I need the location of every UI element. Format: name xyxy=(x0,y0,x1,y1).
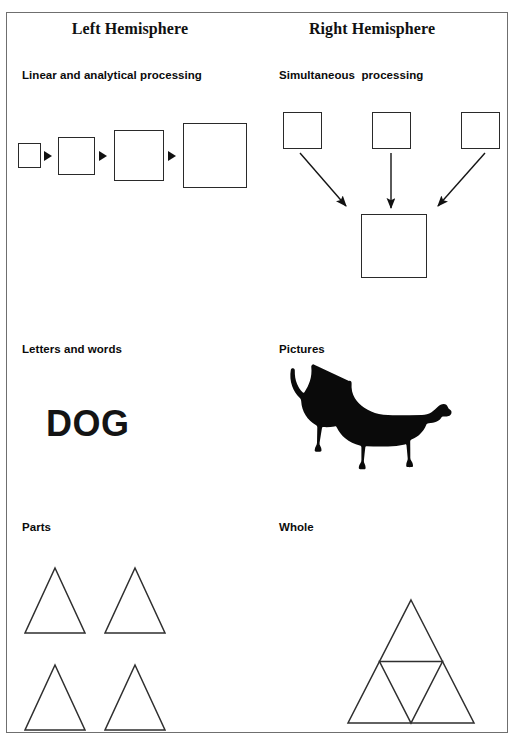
sequence-square-1 xyxy=(18,143,41,168)
label-simultaneous-processing: Simultaneous processing xyxy=(279,69,423,81)
dog-word-text: DOG xyxy=(46,406,130,442)
label-letters-and-words: Letters and words xyxy=(22,343,122,355)
converge-result-square xyxy=(361,214,427,278)
diagram-frame xyxy=(6,12,508,733)
converge-top-square-2 xyxy=(372,112,411,149)
diagram-page: Left Hemisphere Right Hemisphere Linear … xyxy=(0,0,522,741)
sequence-square-2 xyxy=(58,137,95,175)
label-pictures: Pictures xyxy=(279,343,325,355)
label-linear-analytical-processing: Linear and analytical processing xyxy=(22,69,202,81)
right-hemisphere-title: Right Hemisphere xyxy=(262,20,482,38)
converge-top-square-1 xyxy=(283,112,322,149)
sequence-square-4 xyxy=(183,123,247,188)
label-parts: Parts xyxy=(22,521,51,533)
sequence-square-3 xyxy=(114,130,164,181)
sequence-arrow-1 xyxy=(44,151,52,161)
converge-top-square-3 xyxy=(461,112,500,149)
left-hemisphere-title: Left Hemisphere xyxy=(20,20,240,38)
sequence-arrow-2 xyxy=(99,151,107,161)
sequence-arrow-3 xyxy=(168,151,176,161)
label-whole: Whole xyxy=(279,521,314,533)
